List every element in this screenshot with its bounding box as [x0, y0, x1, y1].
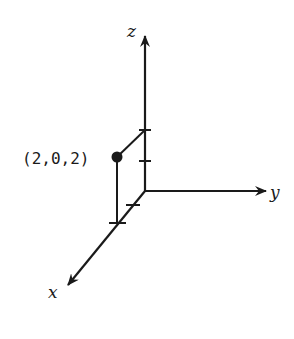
z-axis: z — [126, 21, 151, 191]
diagonal-projection-line — [117, 130, 145, 157]
point-marker — [112, 152, 123, 163]
point-label: (2,0,2) — [22, 149, 89, 168]
y-axis: y — [145, 182, 280, 202]
y-axis-label: y — [269, 182, 280, 202]
x-axis-label: x — [48, 282, 58, 302]
x-axis: x — [48, 191, 145, 302]
z-axis-label: z — [126, 21, 137, 41]
coordinate-diagram: z y x (2,0,2) — [0, 0, 294, 339]
